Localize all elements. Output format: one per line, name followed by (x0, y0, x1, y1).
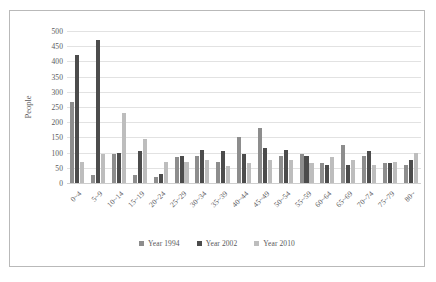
plot-area: 500450400350300250200150100500 (67, 31, 421, 183)
bar (409, 160, 413, 183)
bar (75, 55, 79, 183)
y-axis-tick-label: 450 (51, 42, 63, 51)
x-axis-tick-label: 5~9 (90, 189, 105, 204)
bar (91, 175, 95, 183)
bar (70, 102, 74, 183)
bar (372, 165, 376, 183)
bar (268, 160, 272, 183)
x-axis-tick-label: 75~79 (376, 189, 396, 209)
bar (133, 175, 137, 183)
y-axis-tick-label: 400 (51, 57, 63, 66)
bar (200, 150, 204, 183)
bar-group (192, 31, 213, 183)
x-axis-tick-label: 35~39 (209, 189, 229, 209)
x-axis-tick: 55~59 (296, 187, 317, 233)
bar (205, 160, 209, 183)
legend-swatch-icon (139, 241, 144, 246)
bar (96, 40, 100, 183)
x-axis-tick: 0~4 (67, 187, 88, 233)
bar (138, 151, 142, 183)
legend-swatch-icon (197, 241, 202, 246)
bar (143, 139, 147, 183)
legend-label: Year 2010 (263, 239, 295, 248)
x-axis-tick-label: 50~54 (272, 189, 292, 209)
bar (242, 154, 246, 183)
bar (80, 162, 84, 183)
bar (289, 160, 293, 183)
bar (383, 163, 387, 183)
bar-group (88, 31, 109, 183)
bar (237, 137, 241, 183)
bar-group (338, 31, 359, 183)
bar-group (234, 31, 255, 183)
x-axis-tick: 15~19 (129, 187, 150, 233)
x-axis-tick: 65~69 (338, 187, 359, 233)
bar (404, 165, 408, 183)
bar (341, 145, 345, 183)
bar-group (296, 31, 317, 183)
bar (346, 165, 350, 183)
bar (279, 156, 283, 183)
bar (330, 157, 334, 183)
legend-item[interactable]: Year 2010 (254, 239, 295, 248)
bar (300, 154, 304, 183)
x-axis-tick: 70~74 (359, 187, 380, 233)
x-axis-tick: 5~9 (88, 187, 109, 233)
bar (122, 113, 126, 183)
y-axis-tick-label: 150 (51, 133, 63, 142)
y-axis-title: People (23, 95, 33, 118)
bar (388, 163, 392, 183)
y-axis-tick-label: 200 (51, 118, 63, 127)
bar (101, 154, 105, 183)
bar (184, 162, 188, 183)
bar (263, 148, 267, 183)
gridline (67, 183, 421, 184)
x-axis-tick-label: 40~44 (230, 189, 250, 209)
bar (175, 157, 179, 183)
x-axis-tick-label: 55~59 (293, 189, 313, 209)
bar (164, 162, 168, 183)
bar-group (359, 31, 380, 183)
x-axis-tick-label: 70~74 (355, 189, 375, 209)
bar (325, 165, 329, 183)
y-axis-tick-label: 300 (51, 87, 63, 96)
legend-item[interactable]: Year 2002 (197, 239, 238, 248)
bar (367, 151, 371, 183)
bar-group (400, 31, 421, 183)
bar (393, 162, 397, 183)
x-axis-labels: 0~45~910~1415~1920~2425~2930~3435~3940~4… (67, 187, 421, 233)
x-axis-tick-label: 20~24 (147, 189, 167, 209)
bar (247, 163, 251, 183)
y-axis-tick-label: 0 (59, 179, 63, 188)
y-axis-tick-label: 500 (51, 27, 63, 36)
legend-item[interactable]: Year 1994 (139, 239, 180, 248)
bar-group (275, 31, 296, 183)
x-axis-tick: 40~44 (234, 187, 255, 233)
x-axis-tick: 60~64 (317, 187, 338, 233)
bar (362, 156, 366, 183)
legend-label: Year 2002 (206, 239, 238, 248)
bar (258, 128, 262, 183)
x-axis-tick: 30~34 (192, 187, 213, 233)
x-axis-tick: 35~39 (213, 187, 234, 233)
bar (195, 156, 199, 183)
y-axis-tick-label: 250 (51, 103, 63, 112)
bar (117, 153, 121, 183)
bar (112, 154, 116, 183)
bar-group (129, 31, 150, 183)
x-axis-tick-label: 0~4 (69, 189, 84, 204)
x-axis-tick-label: 45~49 (251, 189, 271, 209)
bar (304, 156, 308, 183)
bar-group (171, 31, 192, 183)
bar-group (67, 31, 88, 183)
bar-group (213, 31, 234, 183)
x-axis-tick-label: 80~ (402, 189, 417, 204)
x-axis-tick: 45~49 (254, 187, 275, 233)
bar-group (150, 31, 171, 183)
bar (351, 160, 355, 183)
x-axis-tick-label: 30~34 (189, 189, 209, 209)
bar (216, 162, 220, 183)
chart-legend: Year 1994Year 2002Year 2010 (10, 239, 424, 248)
legend-swatch-icon (254, 241, 259, 246)
bar (159, 174, 163, 183)
